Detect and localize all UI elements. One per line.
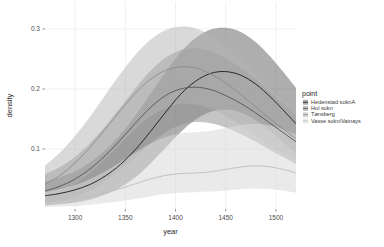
legend-item-vasse-sokn-vatnays[interactable]: Vasse sokn/Vatnays: [303, 118, 361, 124]
legend-item-hedenstad-sokna[interactable]: Hedenstad soknA: [303, 99, 355, 105]
legend-label: Hedenstad soknA: [311, 99, 355, 105]
legend-label: Hol sokn: [311, 105, 333, 111]
x-tick-label: 1350: [118, 214, 133, 221]
legend-item-t-nsberg[interactable]: Tønsberg: [303, 111, 335, 117]
x-tick-label: 1300: [68, 214, 83, 221]
y-tick-label: 0.2: [31, 85, 40, 92]
x-axis-title: year: [163, 227, 178, 236]
y-tick-label: 0.3: [31, 25, 40, 32]
y-tick-label: 0.1: [31, 145, 40, 152]
x-tick-label: 1450: [218, 214, 233, 221]
x-tick-label: 1500: [269, 214, 284, 221]
legend-label: Tønsberg: [311, 111, 335, 117]
legend-label: Vasse sokn/Vatnays: [311, 118, 361, 124]
legend-title: point: [302, 90, 317, 98]
density-chart: 13001350140014501500 0.10.20.3 year dens…: [0, 0, 384, 247]
x-tick-label: 1400: [168, 214, 183, 221]
y-axis-title: density: [5, 93, 14, 117]
legend-item-hol-sokn[interactable]: Hol sokn: [303, 105, 333, 111]
